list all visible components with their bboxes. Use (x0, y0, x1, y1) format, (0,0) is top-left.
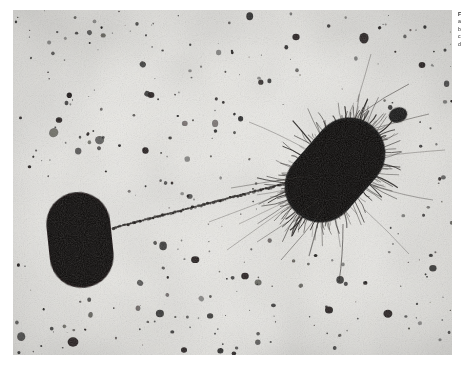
caption-line-3: c (458, 33, 465, 40)
caption-line-1: a (458, 18, 465, 25)
figure-page: F a b c d (0, 0, 465, 367)
caption-line-4: d (458, 41, 465, 48)
margin-caption: F a b c d (458, 11, 465, 48)
caption-line-2: b (458, 26, 465, 33)
caption-line-0: F (458, 11, 465, 18)
plate-vignette (13, 10, 452, 355)
electron-micrograph-plate (13, 10, 452, 355)
micrograph-canvas (13, 10, 452, 355)
